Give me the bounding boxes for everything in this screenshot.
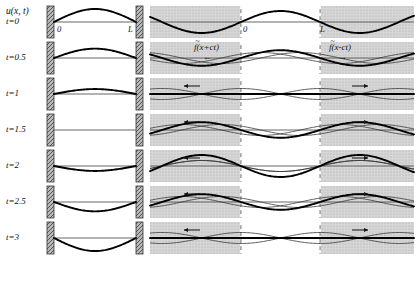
left-wall (47, 114, 54, 146)
string-curve (54, 49, 136, 58)
time-label-0: t=0 (6, 16, 19, 26)
right-wall (136, 6, 143, 38)
left-wall (47, 42, 54, 74)
string-curve (54, 238, 136, 251)
left-wall (47, 6, 54, 38)
string-curve (54, 166, 136, 171)
right-panel-group (150, 6, 414, 254)
right-wall (136, 78, 143, 110)
time-label-5: t=2.5 (6, 196, 26, 206)
right-wall (136, 42, 143, 74)
right-wall (136, 186, 143, 218)
string-curve (54, 202, 136, 211)
right-tick-zero: 0 (243, 24, 247, 34)
right-traveling-wave-label: ~f(x-ct) (329, 42, 351, 52)
axis-label: u(x, t) (6, 6, 29, 16)
right-wall (136, 114, 143, 146)
string-curve (54, 89, 136, 94)
time-label-2: t=1 (6, 88, 19, 98)
right-wall (136, 222, 143, 254)
left-tick-L: L (128, 24, 133, 34)
right-tick-L: L (320, 24, 325, 34)
left-wall (47, 222, 54, 254)
left-traveling-wave-label: ~f(x+ct) (194, 42, 219, 52)
left-wall (47, 78, 54, 110)
left-panel-group (47, 6, 143, 254)
left-wall (47, 150, 54, 182)
time-label-3: t=1.5 (6, 124, 26, 134)
wave-equation-figure: u(x, t) t=0t=0.5t=1t=1.5t=2t=2.5t=3 0 L … (0, 0, 418, 286)
time-label-6: t=3 (6, 232, 19, 242)
string-curve (54, 9, 136, 22)
left-direction-arrow: ← (203, 52, 212, 62)
time-label-4: t=2 (6, 160, 19, 170)
left-wall (47, 186, 54, 218)
right-direction-arrow: → (338, 52, 347, 62)
time-label-1: t=0.5 (6, 52, 26, 62)
right-wall (136, 150, 143, 182)
left-tick-zero: 0 (57, 24, 61, 34)
